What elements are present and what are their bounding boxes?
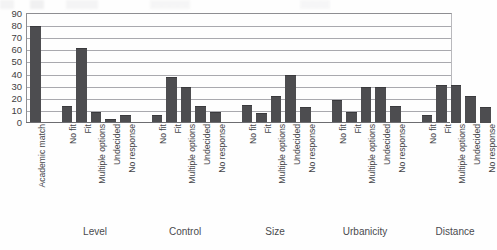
bar-tick-label: No response (218, 124, 226, 173)
bar (361, 87, 372, 123)
bar-tick-label: Multiple options (98, 124, 106, 184)
bar (436, 85, 447, 123)
bar-tick-label: No fit (249, 124, 257, 144)
bar-tick-label: Fit (174, 124, 182, 134)
bar-tick-label: Fit (444, 124, 452, 134)
bar (76, 48, 87, 123)
x-axis-tick-labels: Academic matchNo fitFitMultiple optionsU… (26, 124, 450, 216)
bar (166, 77, 177, 123)
bar-tick-label: Multiple options (458, 124, 466, 184)
bar-tick-label: Multiple options (368, 124, 376, 184)
group-label: Size (265, 226, 284, 237)
bar (62, 106, 73, 123)
bar-tick-label: Undecided (293, 124, 301, 165)
bar-tick-label: Undecided (473, 124, 481, 165)
y-axis-tick-label: 90 (11, 9, 22, 18)
bar (181, 87, 192, 123)
bar-tick-label: No fit (69, 124, 77, 144)
bar-tick-label: Fit (354, 124, 362, 134)
y-axis-tick-label: 60 (11, 45, 22, 54)
bar-tick-label: Academic match (38, 124, 46, 188)
bar (285, 75, 296, 123)
bar-tick-label: Undecided (203, 124, 211, 165)
bar (271, 96, 282, 123)
y-axis-tick-label: 30 (11, 82, 22, 91)
bar-tick-label: No fit (159, 124, 167, 144)
bar (332, 100, 343, 123)
plot-area (26, 13, 452, 123)
bar-tick-label: Fit (84, 124, 92, 134)
bar (465, 96, 476, 123)
bar-tick-label: No fit (339, 124, 347, 144)
bar (451, 85, 462, 123)
bar-tick-label: No response (308, 124, 316, 173)
y-axis-tick-label: 50 (11, 57, 22, 66)
y-axis-tick-label: 10 (11, 106, 22, 115)
bar (195, 106, 206, 123)
bar (375, 87, 386, 123)
bar (300, 107, 311, 123)
bar (480, 107, 491, 123)
bar-tick-label: Fit (264, 124, 272, 134)
x-axis-group-labels: LevelControlSizeUrbanicityDistance (26, 226, 450, 244)
bar (242, 105, 253, 123)
group-label: Distance (436, 226, 475, 237)
group-label: Control (169, 226, 201, 237)
bar-tick-label: No response (128, 124, 136, 173)
bar (390, 106, 401, 123)
bar-tick-label: No response (398, 124, 406, 173)
y-axis-tick-label: 20 (11, 94, 22, 103)
bar-tick-label: No response (488, 124, 496, 173)
bar-tick-label: Multiple options (278, 124, 286, 184)
bar-tick-label: Multiple options (188, 124, 196, 184)
bar-tick-label: Undecided (383, 124, 391, 165)
bar (30, 26, 41, 123)
y-axis-tick-label: 0 (17, 118, 22, 127)
y-axis: 9080706050403020100 (0, 9, 24, 123)
group-label: Urbanicity (343, 226, 387, 237)
y-axis-tick-label: 70 (11, 33, 22, 42)
bar-tick-label: Undecided (113, 124, 121, 165)
group-label: Level (83, 226, 107, 237)
bar-series (27, 14, 451, 123)
y-axis-tick-label: 40 (11, 70, 22, 79)
y-axis-tick-label: 80 (11, 21, 22, 30)
bar-tick-label: No fit (429, 124, 437, 144)
